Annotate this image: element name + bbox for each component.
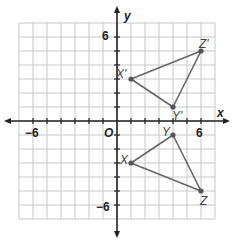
x-axis-label: x: [216, 106, 225, 120]
origin-label: O: [104, 126, 114, 140]
x-tick-label-6: 6: [196, 126, 203, 140]
point-label-y: Y: [162, 125, 171, 139]
point-label-x: X: [119, 153, 129, 167]
point-label-z: Z: [199, 194, 208, 208]
vertex-point: [198, 188, 203, 193]
vertex-point: [128, 160, 133, 165]
vertex-point: [170, 132, 175, 137]
point-label-x-prime: X': [115, 67, 127, 81]
y-tick-label-6: 6: [102, 29, 109, 43]
x-tick-label-neg6: −6: [25, 126, 39, 140]
y-axis-label: y: [123, 9, 132, 23]
point-label-y-prime: Y': [172, 109, 183, 123]
coordinate-plane: y x O −6 6 6 −6 X' Y' Z' X Y Z: [0, 0, 234, 242]
point-label-z-prime: Z': [198, 37, 209, 51]
vertex-point: [128, 76, 133, 81]
axes: [4, 6, 230, 238]
y-tick-label-neg6: −6: [96, 200, 110, 214]
